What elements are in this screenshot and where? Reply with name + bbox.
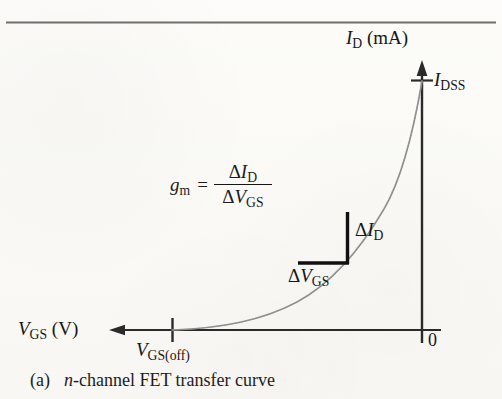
gm-denominator-subscript: GS — [246, 195, 263, 210]
gm-lhs-subscript: m — [180, 183, 191, 198]
delta-id-symbol: I — [367, 219, 373, 240]
transconductance-formula: gm = ΔID ΔVGS — [170, 162, 272, 207]
delta-id-subscript: D — [374, 228, 384, 243]
figure-root: ID (mA) IDSS VGS (V) VGS(off) 0 ΔID ΔVGS… — [0, 0, 502, 399]
figure-caption: (a)n-channel FET transfer curve — [30, 370, 275, 391]
idss-label: IDSS — [434, 70, 465, 89]
delta-vgs-label: ΔVGS — [288, 266, 329, 285]
x-axis-quantity: V — [18, 318, 30, 339]
delta-vgs-symbol: V — [300, 265, 312, 286]
gm-lhs: gm — [170, 174, 195, 196]
y-axis-arrowhead — [417, 60, 428, 76]
delta-vgs-delta: Δ — [288, 265, 300, 286]
vgs-off-symbol: V — [136, 339, 148, 360]
y-axis-subscript: D — [352, 36, 362, 51]
caption-italic-part: n — [64, 370, 73, 390]
vgs-off-subscript: GS(off) — [148, 348, 190, 363]
idss-subscript: DSS — [440, 78, 465, 93]
x-axis-subscript: GS — [30, 327, 47, 342]
gm-denominator-delta: Δ — [222, 186, 234, 207]
gm-denominator: ΔVGS — [218, 185, 267, 207]
gm-numerator: ΔID — [225, 162, 261, 184]
vgs-off-label: VGS(off) — [136, 340, 190, 359]
gm-numerator-subscript: D — [247, 170, 257, 185]
caption-index: (a) — [30, 370, 64, 390]
delta-id-delta: Δ — [355, 219, 367, 240]
y-axis-unit: (mA) — [367, 27, 408, 48]
gm-denominator-symbol: V — [234, 186, 246, 207]
gm-lhs-symbol: g — [170, 174, 180, 195]
gm-numerator-delta: Δ — [229, 161, 241, 182]
origin-label: 0 — [428, 331, 437, 349]
y-axis-label: ID (mA) — [346, 28, 408, 47]
x-axis-arrowhead — [109, 325, 125, 335]
gm-equals-sign: = — [195, 174, 214, 196]
x-axis-label: VGS (V) — [18, 319, 78, 338]
x-axis-unit: (V) — [52, 318, 78, 339]
caption-rest: -channel FET transfer curve — [73, 370, 275, 390]
gm-fraction: ΔID ΔVGS — [214, 162, 272, 207]
delta-vgs-subscript: GS — [312, 274, 329, 289]
delta-id-label: ΔID — [355, 220, 383, 239]
